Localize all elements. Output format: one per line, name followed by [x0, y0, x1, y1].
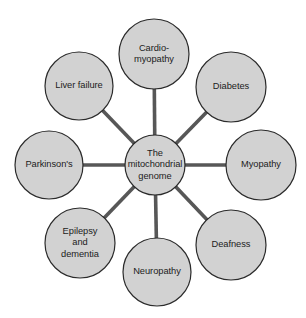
node-neuropathy[interactable]	[123, 238, 191, 306]
node-parkinsons[interactable]	[15, 131, 83, 199]
connector-neuropathy	[156, 192, 157, 241]
connector-liver-failure	[100, 108, 136, 145]
node-epilepsy-dementia[interactable]	[45, 208, 115, 278]
node-myopathy[interactable]	[226, 130, 296, 200]
mitochondrial-genome-diagram: The mitochondrial genomeCardio- myopathy…	[0, 0, 306, 318]
connector-diabetes	[174, 110, 209, 146]
center-node[interactable]	[125, 135, 185, 195]
node-liver-failure[interactable]	[45, 52, 113, 120]
connector-epilepsy-dementia	[102, 184, 136, 219]
node-cardiomyopathy[interactable]	[119, 19, 189, 89]
node-layer	[15, 19, 296, 306]
diagram-canvas	[0, 0, 306, 318]
node-diabetes[interactable]	[196, 52, 266, 122]
connector-deafness	[174, 185, 209, 222]
node-deafness[interactable]	[196, 210, 266, 280]
